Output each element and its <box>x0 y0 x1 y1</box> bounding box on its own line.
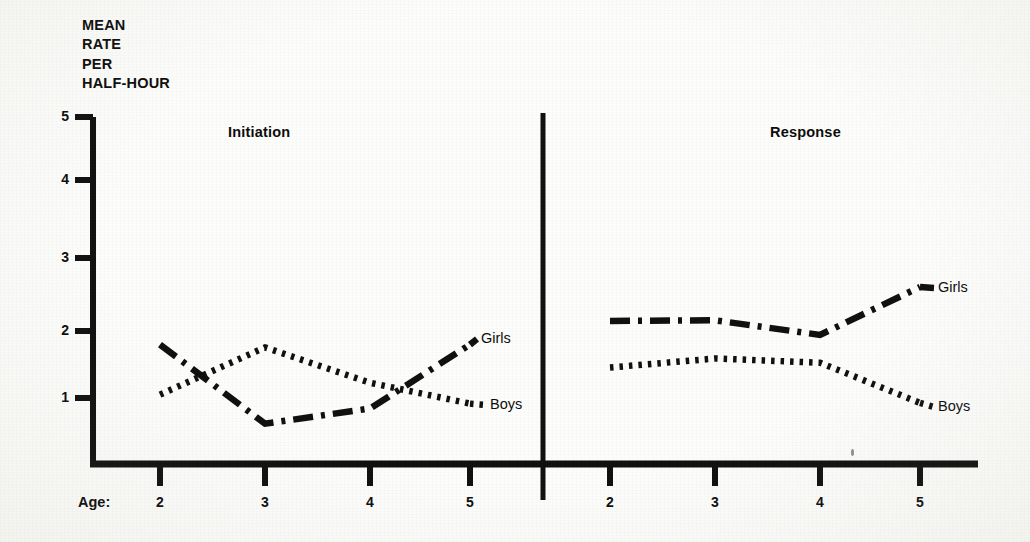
series-leader-initiation_girls <box>470 339 477 345</box>
x-tick-label-p0-age-2: 2 <box>151 494 169 510</box>
scan-speck <box>851 449 854 456</box>
series-leader-response_girls <box>920 287 934 288</box>
series-line-response-boys <box>610 359 920 403</box>
series-label-response-girls: Girls <box>938 279 968 295</box>
series-label-initiation-girls: Girls <box>481 330 511 346</box>
y-tick-label-2: 2 <box>53 322 69 338</box>
series-line-initiation-girls <box>160 345 470 424</box>
y-tick-label-4: 4 <box>53 171 69 187</box>
series-line-response-girls <box>610 287 920 335</box>
series-line-initiation-boys <box>160 347 470 403</box>
y-tick-label-3: 3 <box>53 249 69 265</box>
series-label-initiation-boys: Boys <box>490 396 522 412</box>
x-tick-label-p1-age-3: 3 <box>706 494 724 510</box>
series-label-response-boys: Boys <box>938 398 970 414</box>
y-tick-label-1: 1 <box>53 389 69 405</box>
series-leader-initiation_boys <box>470 404 486 405</box>
x-tick-label-p0-age-5: 5 <box>461 494 479 510</box>
series-group <box>160 287 934 424</box>
panel-title-response: Response <box>770 124 841 140</box>
panel-title-initiation: Initiation <box>228 124 290 140</box>
x-tick-label-p1-age-2: 2 <box>601 494 619 510</box>
series-leader-response_boys <box>920 403 934 407</box>
x-tick-label-p1-age-4: 4 <box>811 494 829 510</box>
y-tick-label-5: 5 <box>53 108 69 124</box>
x-tick-label-p1-age-5: 5 <box>911 494 929 510</box>
axes-group <box>75 113 978 500</box>
x-tick-label-p0-age-3: 3 <box>256 494 274 510</box>
age-axis-label: Age: <box>78 494 110 510</box>
x-tick-label-p0-age-4: 4 <box>361 494 379 510</box>
y-axis-title: MEAN RATE PER HALF-HOUR <box>82 16 170 93</box>
chart-figure: MEAN RATE PER HALF-HOUR Initiation Respo… <box>0 0 1030 542</box>
